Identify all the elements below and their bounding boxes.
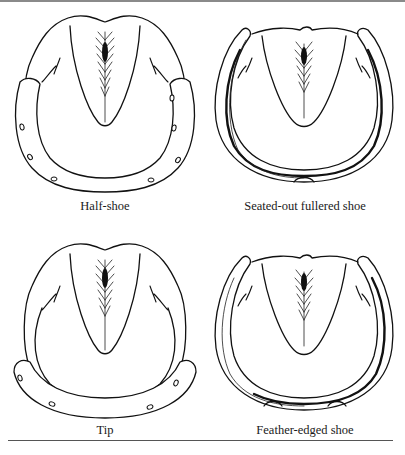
- hoof-fullered-shoe-illustration: [212, 10, 397, 190]
- bottom-rule: [8, 440, 393, 441]
- frog-cleft-icon: [295, 42, 313, 118]
- top-rule: [0, 0, 405, 2]
- frog-cleft-icon: [295, 270, 313, 346]
- caption-tip: Tip: [60, 423, 150, 438]
- caption-feather-edged-shoe: Feather-edged shoe: [235, 423, 375, 438]
- panel-seated-out-fullered-shoe: [212, 10, 397, 190]
- hoof-tip-illustration: [10, 238, 195, 418]
- panel-feather-edged-shoe: [212, 238, 397, 418]
- frog-cleft-icon: [96, 32, 114, 122]
- caption-seated-out-fullered-shoe: Seated-out fullered shoe: [225, 199, 385, 214]
- frog-cleft-icon: [96, 260, 114, 350]
- hoof-half-shoe-illustration: [10, 10, 195, 190]
- hoof-feather-edged-shoe-illustration: [212, 238, 397, 418]
- panel-tip: [10, 238, 195, 418]
- panel-half-shoe: [10, 10, 195, 190]
- caption-half-shoe: Half-shoe: [60, 199, 150, 214]
